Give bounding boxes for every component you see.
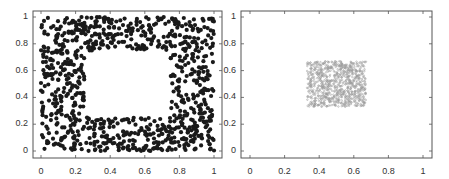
x-tick-label: 0.2 [273,166,297,176]
x-tick-label: 0.6 [342,166,366,176]
y-tick-label: 0.4 [6,91,28,101]
x-tick-label: 0.8 [376,166,400,176]
x-tick-label: 0.4 [98,166,122,176]
right-plot-canvas [225,0,449,179]
y-tick-label: 1 [214,11,236,21]
y-tick-label: 0.8 [214,38,236,48]
y-tick-label: 1 [6,11,28,21]
x-tick-label: 1 [202,166,226,176]
left-plot-canvas [0,0,224,179]
x-tick-label: 0.2 [64,166,88,176]
y-tick-label: 0.2 [214,118,236,128]
x-tick-label: 0.6 [133,166,157,176]
x-tick-label: 0 [238,166,262,176]
y-tick-label: 0.6 [6,65,28,75]
x-tick-label: 0.8 [167,166,191,176]
y-tick-label: 0 [6,145,28,155]
right-scatter-plot: 000.20.20.40.40.60.60.80.811 [225,0,449,179]
y-tick-label: 0.6 [214,65,236,75]
x-tick-label: 1 [411,166,435,176]
x-tick-label: 0 [29,166,53,176]
left-scatter-plot: 000.20.20.40.40.60.60.80.811 [0,0,224,179]
y-tick-label: 0.4 [214,91,236,101]
y-tick-label: 0 [214,145,236,155]
y-tick-label: 0.8 [6,38,28,48]
x-tick-label: 0.4 [307,166,331,176]
y-tick-label: 0.2 [6,118,28,128]
plot-frame [241,11,432,158]
